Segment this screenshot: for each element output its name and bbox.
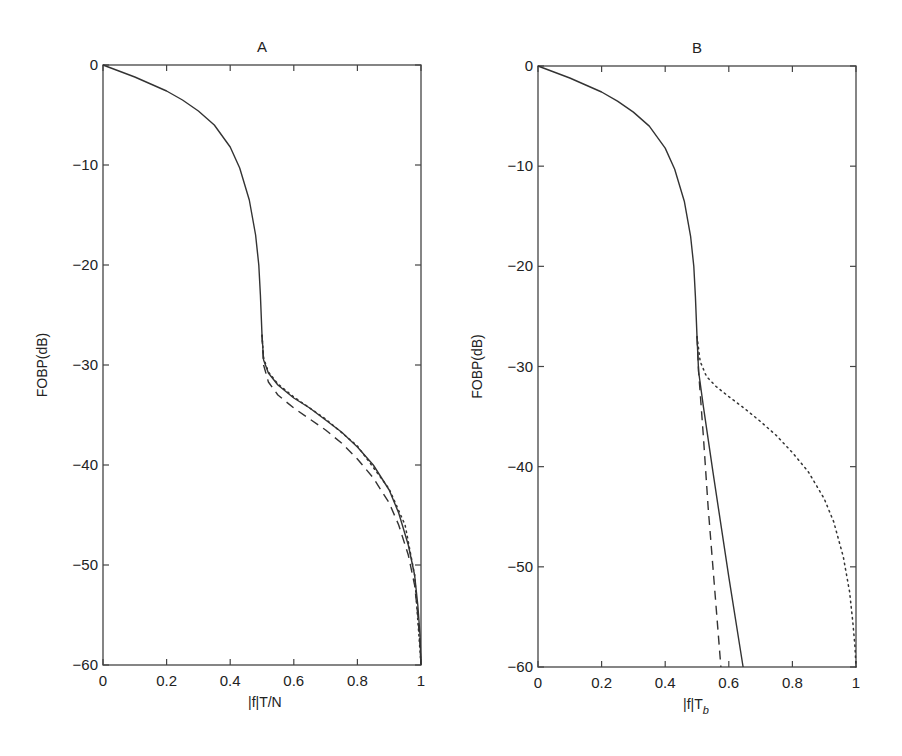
series-dotted-line [697,336,856,667]
y-tick-label: −20 [73,256,98,273]
plot-frame [103,65,421,665]
y-tick-label: −20 [508,257,533,274]
series-solid-line [103,65,421,665]
y-tick-label: −30 [508,358,533,375]
x-tick-label: 1 [852,674,860,691]
x-tick-label: 0.8 [782,674,803,691]
x-tick-label: 0.2 [591,674,612,691]
panel-b: 00.20.40.60.810−10−20−30−40−50−60B|f|TbF… [469,39,860,716]
y-tick-label: −10 [73,156,98,173]
x-tick-label: 0.4 [220,672,241,689]
y-tick-label: −60 [508,658,533,675]
x-tick-label: 0.2 [156,672,177,689]
y-tick-label: −30 [73,356,98,373]
series-dashed-line [262,335,421,665]
x-tick-label: 0.6 [283,672,304,689]
y-tick-label: −40 [508,458,533,475]
chart-title: A [257,38,267,55]
y-tick-label: 0 [525,57,533,74]
y-tick-label: −60 [73,656,98,673]
y-tick-label: −10 [508,157,533,174]
x-tick-label: 0.4 [655,674,676,691]
x-axis-label: |f|Tb [683,696,709,716]
chart-title: B [692,39,702,56]
x-tick-label: 0 [99,672,107,689]
x-tick-label: 0.8 [347,672,368,689]
x-tick-label: 1 [417,672,425,689]
y-tick-label: −40 [73,456,98,473]
y-tick-label: 0 [90,56,98,73]
x-tick-label: 0.6 [718,674,739,691]
x-tick-label: 0 [534,674,542,691]
y-tick-label: −50 [73,556,98,573]
series-dotted-line [262,335,421,665]
series-solid-line [538,66,743,667]
x-axis-label: |f|T/N [248,694,282,710]
chart-canvas: 00.20.40.60.810−10−20−30−40−50−60A|f|T/N… [0,0,902,756]
y-axis-label: FOBP(dB) [469,334,485,399]
y-tick-label: −50 [508,558,533,575]
plot-frame [538,66,856,667]
panel-a: 00.20.40.60.810−10−20−30−40−50−60A|f|T/N… [34,38,425,710]
y-axis-label: FOBP(dB) [34,333,50,398]
